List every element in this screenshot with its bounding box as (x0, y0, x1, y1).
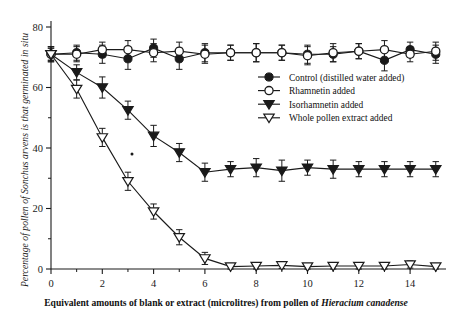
data-point-rhamnetin-added-12 (355, 47, 363, 55)
legend-label-rhamnetin-added: Rhamnetin added (289, 86, 355, 96)
data-point-rhamnetin-added-10 (303, 52, 311, 60)
legend-marker-rhamnetin-added (265, 87, 273, 95)
x-tick-label-2: 2 (100, 278, 105, 289)
data-point-rhamnetin-added-3 (124, 46, 132, 54)
data-point-whole-pollen-extract-added-2 (97, 134, 107, 143)
data-point-isorhamnetin-added-6 (200, 169, 210, 178)
x-tick-label-14: 14 (405, 278, 416, 289)
data-point-isorhamnetin-added-9 (277, 167, 287, 176)
data-point-isorhamnetin-added-1 (71, 69, 81, 78)
legend-marker-control-distilled-water-added (265, 73, 273, 81)
x-tick-label-12: 12 (354, 278, 365, 289)
x-tick-label-0: 0 (48, 278, 53, 289)
legend-label-whole-pollen-extract-added: Whole pollen extract added (289, 113, 393, 123)
data-point-rhamnetin-added-13 (380, 46, 388, 54)
data-point-isorhamnetin-added-5 (174, 149, 184, 158)
data-point-rhamnetin-added-8 (252, 49, 260, 57)
data-point-isorhamnetin-added-4 (148, 132, 158, 141)
data-point-rhamnetin-added-4 (150, 49, 158, 57)
data-point-whole-pollen-extract-added-1 (71, 85, 81, 94)
x-axis-label-species: Hieracium canadense (321, 297, 408, 308)
data-point-rhamnetin-added-7 (226, 49, 234, 57)
x-tick-label-4: 4 (151, 278, 157, 289)
x-axis-label-lead: Equivalent amounts of blank or extract (… (44, 297, 321, 308)
x-axis-label: Equivalent amounts of blank or extract (… (0, 297, 452, 308)
x-tick-label-6: 6 (202, 278, 207, 289)
data-point-whole-pollen-extract-added-15 (431, 263, 441, 272)
data-point-rhamnetin-added-6 (201, 50, 209, 58)
x-tick-label-10: 10 (302, 278, 313, 289)
data-point-rhamnetin-added-2 (98, 46, 106, 54)
chart-figure: Percentage of pollen of Sonchus arvens i… (0, 0, 452, 319)
y-tick-label-0: 0 (38, 264, 43, 275)
y-tick-label-20: 20 (33, 203, 44, 214)
y-tick-label-80: 80 (33, 22, 44, 33)
data-point-whole-pollen-extract-added-7 (225, 263, 235, 272)
data-point-rhamnetin-added-11 (329, 49, 337, 57)
data-point-rhamnetin-added-9 (278, 49, 286, 57)
data-point-whole-pollen-extract-added-10 (302, 263, 312, 272)
y-tick-label-40: 40 (33, 143, 44, 154)
legend-label-isorhamnetin-added: Isorhamnetin added (289, 100, 364, 110)
series-line-whole-pollen-extract-added (51, 54, 436, 266)
line-chart-plot: 02040608002468101214Control (distilled w… (0, 0, 452, 319)
legend-label-control-distilled-water-added: Control (distilled water added) (289, 73, 404, 84)
scan-speck (131, 153, 134, 156)
data-point-rhamnetin-added-14 (406, 50, 414, 58)
y-tick-label-60: 60 (33, 82, 44, 93)
data-point-rhamnetin-added-15 (432, 47, 440, 55)
data-point-rhamnetin-added-5 (175, 47, 183, 55)
x-tick-label-8: 8 (254, 278, 259, 289)
y-axis-label: Percentage of pollen of Sonchus arvens i… (20, 30, 30, 290)
data-point-rhamnetin-added-1 (73, 50, 81, 58)
